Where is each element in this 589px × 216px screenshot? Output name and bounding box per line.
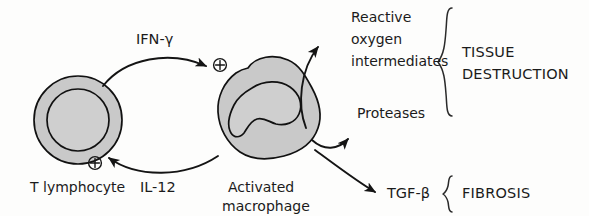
label-reactive-oxygen-line3: intermediates: [351, 53, 448, 69]
label-tgf-beta: TGF-β: [386, 185, 430, 201]
label-reactive-oxygen-line1: Reactive: [351, 9, 411, 25]
arrow-to-tgf-beta: [315, 150, 375, 192]
arrow-to-proteases: [312, 139, 348, 148]
arrow-il-12: [109, 156, 218, 173]
immunology-diagram: IFN-γ IL-12 T lymphocyte Activated macro…: [0, 0, 589, 216]
brace-fibrosis: [443, 176, 452, 212]
plus-circle-lymphocyte-icon: [89, 157, 102, 170]
plus-circle-macrophage-icon: [214, 59, 227, 72]
label-fibrosis: FIBROSIS: [462, 185, 530, 201]
arrow-ifn-gamma: [103, 58, 206, 86]
label-activated-macrophage-line2: macrophage: [222, 198, 310, 214]
label-activated-macrophage-line1: Activated: [228, 179, 294, 195]
cell-t-lymphocyte: [34, 76, 122, 164]
label-ifn-gamma: IFN-γ: [136, 31, 174, 47]
label-t-lymphocyte: T lymphocyte: [29, 179, 125, 195]
t-lymphocyte-nucleus: [47, 89, 109, 151]
label-tissue-destruction-line2: DESTRUCTION: [462, 66, 569, 82]
diagram-canvas: IFN-γ IL-12 T lymphocyte Activated macro…: [0, 0, 589, 216]
label-reactive-oxygen-line2: oxygen: [351, 31, 402, 47]
label-tissue-destruction-line1: TISSUE: [461, 44, 515, 60]
label-il-12: IL-12: [140, 179, 176, 195]
label-proteases: Proteases: [357, 105, 425, 121]
